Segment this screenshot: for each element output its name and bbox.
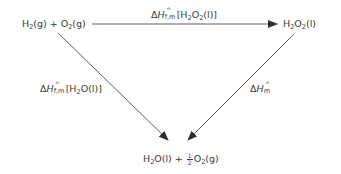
label-right-enthalpy: ΔH⦵m xyxy=(250,84,276,94)
label-left-enthalpy: ΔH⦵f,m[H2O(l)] xyxy=(40,84,102,94)
one-half-fraction: 12 xyxy=(187,153,193,166)
arrow-right xyxy=(188,34,294,140)
node-intermediate: H2O2(l) xyxy=(283,19,316,29)
node-reactants: H2(g) + O2(g) xyxy=(22,19,86,29)
label-top-enthalpy: ΔH⦵f,m[H2O2(l)] xyxy=(151,10,217,20)
node-products: H2O(l) + 12O2(g) xyxy=(143,153,219,166)
